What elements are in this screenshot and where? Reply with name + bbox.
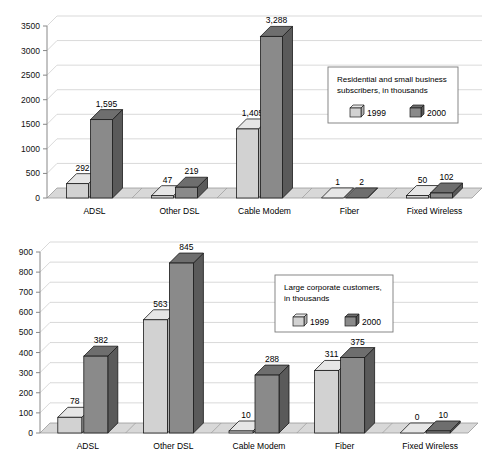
chart-canvas: 0100200300400500600700800900783825638451…: [0, 228, 492, 467]
bar-value-label: 2: [359, 177, 364, 187]
x-tick-label: ADSL: [77, 441, 99, 451]
legend-title-line: subscribers, in thousands: [337, 86, 428, 95]
bar-value-label: 1,595: [96, 99, 118, 109]
legend-series-label: 1999: [367, 108, 386, 118]
legend-title-line: Large corporate customers,: [284, 283, 382, 292]
y-tick-label: 600: [19, 307, 33, 317]
bar-value-label: 1: [335, 177, 340, 187]
y-tick-label: 400: [19, 348, 33, 358]
y-tick-label: 800: [19, 267, 33, 277]
x-tick-label: Other DSL: [153, 441, 193, 451]
legend-series-label: 2000: [427, 108, 446, 118]
bar-value-label: 292: [75, 163, 89, 173]
y-tick-label: 300: [19, 368, 33, 378]
bar-value-label: 219: [184, 166, 198, 176]
bar-value-label: 10: [438, 410, 448, 420]
y-tick-label: 500: [26, 168, 40, 178]
x-tick-label: Fixed Wireless: [402, 441, 458, 451]
chart-residential-subscribers: 05001000150020002500300035002921,5954721…: [0, 0, 492, 228]
x-tick-label: Cable Modem: [238, 206, 291, 216]
bar-value-label: 50: [418, 175, 428, 185]
bar-adsl-2000: 1,595: [91, 99, 123, 198]
x-axis-labels: ADSLOther DSLCable ModemFiberFixed Wirel…: [77, 441, 458, 451]
y-tick-label: 2000: [21, 95, 40, 105]
legend-title-line: in thousands: [284, 294, 329, 303]
legend-series-label: 1999: [310, 317, 329, 327]
bar-value-label: 288: [265, 354, 279, 364]
y-axis: 0500100015002000250030003500: [21, 21, 47, 203]
legend-series-label: 2000: [362, 317, 381, 327]
bar-value-label: 78: [70, 396, 80, 406]
bar-value-label: 375: [351, 337, 365, 347]
x-tick-label: Fiber: [340, 206, 360, 216]
chart-corporate-customers: 0100200300400500600700800900783825638451…: [0, 228, 492, 467]
bar-cable-modem-2000: 3,288: [261, 15, 293, 198]
bar-value-label: 563: [153, 299, 167, 309]
bar-value-label: 47: [163, 175, 173, 185]
bar-value-label: 102: [439, 172, 453, 182]
x-tick-label: Fiber: [335, 441, 355, 451]
x-tick-label: Other DSL: [159, 206, 199, 216]
bar-value-label: 10: [241, 410, 251, 420]
y-tick-label: 3500: [21, 21, 40, 31]
bar-cable-modem-2000: 288: [255, 354, 289, 433]
bar-other-dsl-2000: 219: [176, 166, 208, 198]
x-tick-label: ADSL: [83, 206, 105, 216]
y-tick-label: 100: [19, 408, 33, 418]
y-tick-label: 1000: [21, 144, 40, 154]
chart-page: 05001000150020002500300035002921,5954721…: [0, 0, 492, 467]
legend-title-line: Residential and small business: [337, 75, 447, 84]
x-tick-label: Fixed Wireless: [407, 206, 463, 216]
bar-value-label: 845: [179, 242, 193, 252]
y-tick-label: 200: [19, 388, 33, 398]
bar-value-label: 311: [325, 349, 339, 359]
chart-legend: Large corporate customers,in thousands19…: [275, 275, 393, 332]
bar-other-dsl-2000: 845: [169, 242, 203, 433]
y-tick-label: 900: [19, 247, 33, 257]
bar-value-label: 0: [415, 412, 420, 422]
x-tick-label: Cable Modem: [233, 441, 286, 451]
y-tick-label: 700: [19, 287, 33, 297]
y-tick-label: 3000: [21, 46, 40, 56]
y-tick-label: 0: [28, 428, 33, 438]
chart-legend: Residential and small businesssubscriber…: [328, 67, 458, 123]
x-axis-labels: ADSLOther DSLCable ModemFiberFixed Wirel…: [83, 206, 462, 216]
y-axis: 0100200300400500600700800900: [19, 247, 40, 438]
y-tick-label: 0: [35, 193, 40, 203]
bar-fiber-2000: 375: [341, 337, 375, 433]
y-tick-label: 2500: [21, 70, 40, 80]
y-tick-label: 500: [19, 327, 33, 337]
bar-adsl-2000: 382: [84, 335, 118, 433]
bar-value-label: 382: [94, 335, 108, 345]
y-tick-label: 1500: [21, 119, 40, 129]
chart-canvas: 05001000150020002500300035002921,5954721…: [0, 0, 492, 228]
bar-value-label: 3,288: [266, 15, 288, 25]
